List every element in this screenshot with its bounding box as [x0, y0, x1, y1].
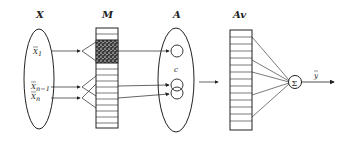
- label-a: A: [172, 9, 181, 20]
- sum-node: Σ: [289, 76, 302, 89]
- input-x1: X 1: [32, 47, 42, 58]
- label-output: y: [313, 72, 319, 80]
- active-memory-cells: [96, 40, 118, 63]
- output-y: y: [302, 71, 335, 82]
- label-x: X: [35, 9, 45, 20]
- memory-m: M: [96, 9, 118, 128]
- label-m: M: [101, 9, 114, 20]
- association-circle: [171, 87, 183, 99]
- input-xn-1: X n−1: [30, 82, 50, 93]
- cmac-diagram: X X 1 X n−1 X n M: [0, 0, 349, 143]
- input-xn: X n: [30, 92, 40, 103]
- sigma-icon: Σ: [292, 79, 298, 88]
- svg-text:1: 1: [38, 50, 42, 58]
- x-to-m-connections: [51, 42, 96, 108]
- input-space-x: X X 1 X n−1 X n: [24, 9, 54, 129]
- svg-text:n−1: n−1: [36, 85, 50, 93]
- label-av: Av: [232, 9, 246, 20]
- association-a: A c: [158, 9, 194, 132]
- actual-memory-av: Av: [230, 9, 252, 130]
- association-circle: [171, 45, 183, 57]
- label-c: c: [174, 66, 178, 74]
- svg-text:n: n: [36, 95, 40, 103]
- weight-connections: [252, 37, 289, 117]
- m-to-a-connections: [118, 51, 169, 98]
